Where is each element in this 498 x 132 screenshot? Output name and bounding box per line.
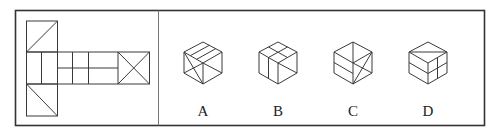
option-c-cube[interactable] <box>334 42 372 84</box>
option-c-label: C <box>348 103 358 119</box>
option-d-cube[interactable] <box>409 42 447 84</box>
cube-top-edges <box>409 52 447 63</box>
left-face-midline <box>334 63 353 74</box>
cube-top-edges <box>259 52 297 63</box>
right-face-diagonal <box>278 63 297 73</box>
option-d-label: D <box>423 103 434 119</box>
right-face-diagonal <box>203 63 222 73</box>
option-b-label: B <box>273 103 283 119</box>
option-a-label: A <box>198 103 209 119</box>
right-face-diagonal-2 <box>353 63 372 73</box>
puzzle-figure: A B C <box>0 0 498 132</box>
left-face-diagonal-2 <box>184 63 203 73</box>
net-face-top-diagonal <box>27 21 58 52</box>
option-b-cube[interactable] <box>259 42 297 84</box>
figure-canvas: A B C <box>0 0 498 132</box>
left-face-midline <box>409 63 428 74</box>
cube-net <box>27 21 150 116</box>
option-a-cube[interactable] <box>184 42 222 84</box>
net-face-bottom-diagonal <box>27 84 58 116</box>
